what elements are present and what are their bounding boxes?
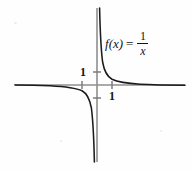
- fraction-denominator: x: [138, 44, 147, 57]
- figure-container: 1 1 f(x) = 1 x: [0, 0, 191, 170]
- y-axis-label-one: 1: [80, 66, 86, 78]
- function-equation-label: f(x) = 1 x: [105, 30, 148, 57]
- fraction-one-over-x: 1 x: [137, 30, 148, 57]
- curve-branch-quadrant-three: [15, 85, 94, 162]
- fraction-numerator: 1: [138, 30, 148, 43]
- function-plot: [0, 0, 191, 170]
- x-axis-label-one: 1: [109, 90, 115, 102]
- equals-sign: =: [126, 37, 133, 50]
- function-argument: (x): [109, 37, 123, 50]
